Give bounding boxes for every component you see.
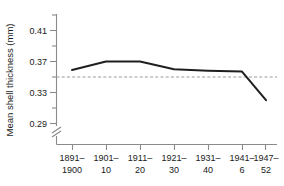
svg-text:1891–: 1891– — [59, 153, 84, 163]
y-axis-title: Mean shell thickness (mm) — [4, 24, 15, 137]
svg-text:1900: 1900 — [62, 165, 82, 175]
data-series-line — [72, 62, 266, 101]
x-tick-label-0: 1891– 1900 — [59, 153, 84, 175]
svg-text:1921–: 1921– — [161, 153, 186, 163]
svg-text:1931–: 1931– — [195, 153, 220, 163]
x-tick-label-1: 1901– 10 — [93, 153, 118, 175]
svg-text:52: 52 — [261, 165, 271, 175]
y-tick-label-3: 0.29 — [29, 119, 47, 129]
svg-text:20: 20 — [135, 165, 145, 175]
line-chart: Mean shell thickness (mm) 0.41 0.37 — [0, 0, 284, 186]
x-tick-label-4: 1931– 40 — [195, 153, 220, 175]
y-tick-label-1: 0.37 — [29, 57, 47, 67]
svg-text:1947–: 1947– — [253, 153, 278, 163]
chart-figure: Mean shell thickness (mm) 0.41 0.37 — [0, 0, 284, 186]
x-tick-label-5: 1941– 6 — [229, 153, 254, 175]
svg-text:1901–: 1901– — [93, 153, 118, 163]
svg-text:6: 6 — [239, 165, 244, 175]
svg-text:40: 40 — [203, 165, 213, 175]
x-axis-ticks — [73, 145, 266, 151]
svg-text:1911–: 1911– — [128, 153, 152, 163]
y-tick-label-2: 0.33 — [29, 88, 47, 98]
y-tick-label-0: 0.41 — [29, 26, 47, 36]
x-tick-label-3: 1921– 30 — [161, 153, 186, 175]
svg-text:1941–: 1941– — [229, 153, 254, 163]
axis-break-icon — [52, 127, 61, 137]
x-tick-label-2: 1911– 20 — [128, 153, 152, 175]
svg-text:30: 30 — [169, 165, 179, 175]
x-tick-label-6: 1947– 52 — [253, 153, 278, 175]
svg-text:10: 10 — [101, 165, 111, 175]
